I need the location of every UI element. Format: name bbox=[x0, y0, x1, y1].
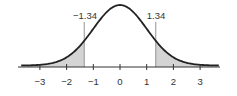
x-tick-label: 2 bbox=[171, 76, 176, 87]
left-cutoff-label: −1.34 bbox=[73, 10, 97, 21]
x-tick-label: −2 bbox=[61, 76, 72, 87]
cutoff-lines bbox=[84, 22, 156, 67]
right-cutoff-label: 1.34 bbox=[147, 10, 166, 21]
x-tick-label: 0 bbox=[117, 76, 122, 87]
x-tick-label: −3 bbox=[34, 76, 45, 87]
x-tick-label: −1 bbox=[88, 76, 99, 87]
normal-distribution-chart: −3−2−10123 −1.34 1.34 bbox=[0, 0, 237, 96]
normal-curve bbox=[21, 5, 219, 65]
x-tick-label: 3 bbox=[197, 76, 202, 87]
x-tick-label: 1 bbox=[144, 76, 149, 87]
